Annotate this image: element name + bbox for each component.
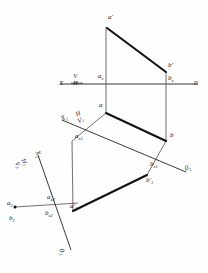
projector-a2-to-a1 [15, 203, 78, 207]
point-label-a2: a2 [7, 200, 13, 207]
point-label-a-prime: a' [108, 14, 113, 21]
segment-a1-prime-b1-prime [73, 175, 147, 211]
point-label-a-x1: ax1 [75, 133, 83, 140]
point-dot-a2 [14, 206, 17, 209]
ground-line-x2-02 [38, 155, 71, 250]
point-label-b: b [170, 132, 174, 139]
point-label-b-x: bx [168, 75, 174, 82]
segment-a-prime-b-prime [107, 28, 166, 72]
point-label-a1-prime: a'1 [70, 203, 77, 210]
point-label-b1-prime: b'1 [146, 177, 153, 184]
projection-drawing-canvas [0, 0, 208, 273]
axis-divider-rule-1 [71, 82, 83, 85]
point-label-b-x2: bx2 [45, 210, 53, 217]
point-label-a-x2: ax2 [47, 194, 55, 201]
axis-label-x: X [59, 80, 63, 87]
projector-ax1-to-a1prime [72, 141, 73, 211]
axis-label-x1: X1 [60, 114, 69, 123]
axis-label-0: 0 [194, 80, 198, 87]
projector-b-to-system2 [147, 141, 166, 175]
ground-line-x1-01 [62, 120, 186, 172]
point-label-a-x: ax [98, 73, 104, 80]
point-label-a: a [99, 102, 103, 109]
point-label-b-prime: b' [168, 62, 173, 69]
point-label-b-x1: bx1 [150, 161, 158, 168]
segment-a-b [106, 113, 166, 141]
descriptive-geometry-figure: X V H 0 X1 H V1 01 X2 H1 V2 02 a' b' ax … [0, 0, 208, 273]
point-label-b2: b2 [9, 215, 15, 222]
